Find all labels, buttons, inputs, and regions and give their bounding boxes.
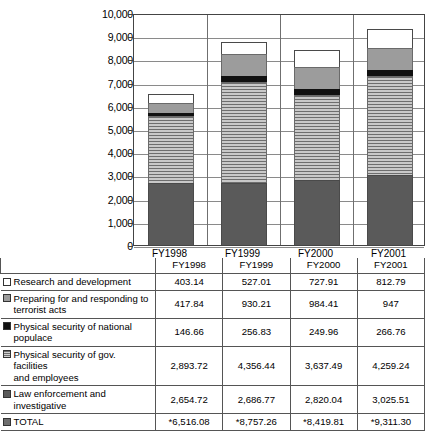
- y-axis-tick-label: 9,000: [87, 32, 133, 42]
- table-cell-value: 727.91: [290, 274, 357, 291]
- bar-fy1999: [221, 42, 267, 245]
- table-row: Research and development403.14527.01727.…: [1, 274, 425, 291]
- legend-entry: Preparing for and responding toterrorist…: [3, 293, 153, 316]
- y-axis-tick-mark: [128, 60, 133, 61]
- table-cell-value: *8,757.26: [223, 414, 290, 431]
- table-cell-value: 249.96: [290, 318, 357, 346]
- table-cell-value: 4,356.44: [223, 346, 290, 386]
- table-body: FY1998FY1999FY2000FY2001Research and dev…: [1, 258, 425, 430]
- table-corner-cell: [1, 258, 156, 274]
- bar-fy2001: [367, 29, 413, 245]
- legend-swatch-rnd-icon: [3, 278, 11, 286]
- table-cell-value: *8,419.81: [290, 414, 357, 431]
- table-cell-value: 266.76: [357, 318, 424, 346]
- y-axis-tick-label: 2,000: [87, 195, 133, 205]
- category-separator: [207, 15, 208, 245]
- bar-segment-law: [294, 180, 340, 245]
- legend-entry: Physical security of gov. facilitiesand …: [3, 349, 153, 384]
- bar-segment-rnd: [367, 29, 413, 48]
- y-axis-tick-label: 5,000: [87, 125, 133, 135]
- table-cell-value: 930.21: [223, 290, 290, 318]
- table-cell-value: 4,259.24: [357, 346, 424, 386]
- legend-row-label: Physical security of gov. facilitiesand …: [1, 346, 156, 386]
- legend-row-label: TOTAL: [1, 414, 156, 431]
- table-row: Law enforcement and investigative2,654.7…: [1, 386, 425, 414]
- bar-segment-prep: [221, 54, 267, 76]
- table-column-header: FY2001: [357, 258, 424, 274]
- y-axis-tick-label: 7,000: [87, 79, 133, 89]
- y-axis-tick-mark: [128, 14, 133, 15]
- table-cell-value: 403.14: [156, 274, 223, 291]
- y-axis-tick-mark: [128, 107, 133, 108]
- data-table: FY1998FY1999FY2000FY2001Research and dev…: [0, 258, 425, 431]
- table-column-header: FY1999: [223, 258, 290, 274]
- legend-label-text: TOTAL: [14, 416, 44, 428]
- plot-area: [133, 14, 425, 246]
- y-axis-tick-label: 6,000: [87, 102, 133, 112]
- legend-row-label: Physical security of nationalpopulace: [1, 318, 156, 346]
- table-column-header: FY2000: [290, 258, 357, 274]
- bar-segment-rnd: [294, 50, 340, 67]
- legend-label-text: Preparing for and responding toterrorist…: [14, 293, 149, 316]
- y-axis-tick-label: 0: [87, 241, 133, 251]
- legend-label-text: Law enforcement and investigative: [14, 388, 153, 411]
- legend-label-text: Research and development: [14, 276, 131, 288]
- table-cell-value: 256.83: [223, 318, 290, 346]
- bar-segment-rnd: [148, 94, 194, 103]
- table-cell-value: 947: [357, 290, 424, 318]
- category-separator: [280, 15, 281, 245]
- category-separator: [353, 15, 354, 245]
- legend-swatch-nat-icon: [3, 322, 11, 330]
- y-axis-tick-label: 10,000: [87, 9, 133, 19]
- y-axis-tick-mark: [128, 37, 133, 38]
- y-axis-tick-mark: [128, 84, 133, 85]
- table-cell-value: 984.41: [290, 290, 357, 318]
- table-header-row: FY1998FY1999FY2000FY2001: [1, 258, 425, 274]
- table-cell-value: *9,311.30: [357, 414, 424, 431]
- table-cell-value: 146.66: [156, 318, 223, 346]
- table-cell-value: 527.01: [223, 274, 290, 291]
- y-axis-tick-label: 8,000: [87, 55, 133, 65]
- table-row: Physical security of gov. facilitiesand …: [1, 346, 425, 386]
- y-axis-tick-mark: [128, 246, 133, 247]
- table-row: Preparing for and responding toterrorist…: [1, 290, 425, 318]
- bar-segment-gov: [148, 116, 194, 183]
- bar-fy2000: [294, 50, 340, 245]
- table-cell-value: 2,686.77: [223, 386, 290, 414]
- table-cell-value: 812.79: [357, 274, 424, 291]
- table-cell-value: 2,893.72: [156, 346, 223, 386]
- y-axis-tick-label: 4,000: [87, 148, 133, 158]
- bar-fy1998: [148, 94, 194, 245]
- y-axis-tick-label: 1,000: [87, 218, 133, 228]
- y-axis-tick-label: 3,000: [87, 171, 133, 181]
- legend-swatch-gov-icon: [3, 350, 11, 358]
- table-cell-value: 2,654.72: [156, 386, 223, 414]
- table-row: Physical security of nationalpopulace146…: [1, 318, 425, 346]
- bar-segment-law: [367, 175, 413, 245]
- legend-entry: Law enforcement and investigative: [3, 388, 153, 411]
- bar-segment-gov: [367, 76, 413, 175]
- y-axis-tick-mark: [128, 153, 133, 154]
- y-axis-labels: 10,0009,0008,0007,0006,0005,0004,0003,00…: [85, 0, 133, 260]
- legend-label-text: Physical security of nationalpopulace: [14, 321, 132, 344]
- y-axis-tick-mark: [128, 223, 133, 224]
- legend-row-label: Law enforcement and investigative: [1, 386, 156, 414]
- stacked-bar-chart: 10,0009,0008,0007,0006,0005,0004,0003,00…: [0, 0, 428, 260]
- legend-row-label: Preparing for and responding toterrorist…: [1, 290, 156, 318]
- table-cell-value: 2,820.04: [290, 386, 357, 414]
- table-cell-value: *6,516.08: [156, 414, 223, 431]
- legend-entry: Physical security of nationalpopulace: [3, 321, 153, 344]
- bar-segment-prep: [294, 67, 340, 90]
- bar-segment-law: [221, 183, 267, 245]
- legend-entry: Research and development: [3, 276, 153, 288]
- legend-entry: TOTAL: [3, 416, 153, 428]
- bar-segment-rnd: [221, 42, 267, 54]
- y-axis-tick-mark: [128, 176, 133, 177]
- bar-segment-law: [148, 183, 194, 245]
- table-cell-value: 3,637.49: [290, 346, 357, 386]
- table-cell-value: 3,025.51: [357, 386, 424, 414]
- bar-segment-prep: [367, 48, 413, 70]
- legend-swatch-prep-icon: [3, 294, 11, 302]
- bar-segment-gov: [294, 95, 340, 179]
